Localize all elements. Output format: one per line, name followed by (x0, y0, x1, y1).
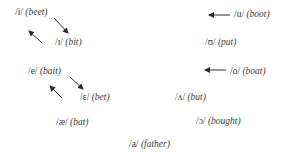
vowel-label-o: /o/ (boat) (230, 66, 266, 77)
vowel-example-word: (but) (187, 92, 205, 102)
vowel-example-word: (boat) (242, 66, 265, 76)
vowel-example-word: (put) (218, 37, 236, 47)
vowel-symbol: /ɪ/ (55, 37, 65, 47)
vowel-label-uh: /ʊ/ (put) (205, 37, 236, 48)
vowel-label-i: /i/ (beet) (15, 7, 47, 18)
vowel-label-wedge: /ʌ/ (but) (175, 92, 206, 103)
vowel-label-a: /a/ (father) (129, 139, 170, 150)
arrow-icon (54, 18, 68, 33)
vowel-example-word: (father) (141, 139, 170, 149)
vowel-symbol: /æ/ (56, 117, 70, 127)
vowel-example-word: (bit) (65, 37, 81, 47)
vowel-symbol: /ɔ/ (196, 116, 208, 126)
vowel-label-open-o: /ɔ/ (bought) (196, 116, 241, 127)
arrow-icon (70, 77, 83, 89)
vowel-example-word: (bet) (92, 92, 110, 102)
vowel-symbol: /e/ (28, 66, 40, 76)
vowel-symbol: /ʊ/ (205, 37, 218, 47)
vowel-example-word: (bat) (70, 117, 88, 127)
vowel-label-eh: /ɛ/ (bet) (80, 92, 110, 103)
vowel-label-ae: /æ/ (bat) (56, 117, 88, 128)
vowel-symbol: /o/ (230, 66, 242, 76)
arrows-layer (0, 0, 288, 158)
vowel-symbol: /a/ (129, 139, 141, 149)
vowel-symbol: /ʌ/ (175, 92, 187, 102)
arrow-icon (29, 31, 42, 43)
vowel-example-word: (boot) (246, 9, 269, 19)
vowel-label-e: /e/ (bait) (28, 66, 61, 77)
vowel-example-word: (beet) (25, 7, 47, 17)
vowel-symbol: /u/ (234, 9, 246, 19)
vowel-symbol: /i/ (15, 7, 25, 17)
arrow-icon (50, 86, 62, 98)
vowel-symbol: /ɛ/ (80, 92, 92, 102)
vowel-label-u: /u/ (boot) (234, 9, 270, 20)
vowel-example-word: (bait) (40, 66, 61, 76)
vowel-example-word: (bought) (208, 116, 241, 126)
vowel-label-ih: /ɪ/ (bit) (55, 37, 82, 48)
